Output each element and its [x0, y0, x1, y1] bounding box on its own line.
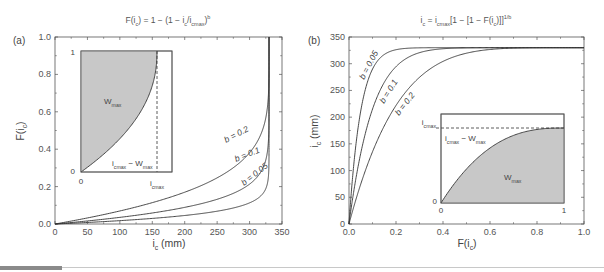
text-span: (mm) — [308, 114, 320, 141]
inset-x-right-label: 1 — [562, 206, 567, 215]
x-tick-label: 0.4 — [437, 227, 450, 237]
panel-b: 0.00.20.40.60.81.0050100150200250300350b… — [308, 14, 590, 251]
y-tick-label: 50 — [335, 192, 345, 202]
text-span: F(i — [126, 15, 136, 25]
inset-y-top-label: 1 — [71, 48, 76, 57]
curve-label: b = 0.2 — [222, 123, 250, 144]
bottom-divider — [0, 266, 604, 270]
y-tick-label: 250 — [330, 85, 345, 95]
panel-label-b: (b) — [308, 35, 320, 46]
x-tick-label: 200 — [177, 227, 192, 237]
y-axis-label-b: ic (mm) — [308, 114, 322, 147]
y-tick-label: 0.8 — [38, 69, 51, 79]
y-tick-label: 200 — [330, 112, 345, 122]
bottom-divider-line — [62, 267, 604, 268]
inset-icmax-label: icmax — [422, 118, 437, 129]
chart-title-a: F(ic) = 1 − (1 − ic/icmax)b — [126, 14, 211, 27]
text-span: cmax — [152, 184, 165, 190]
text-span: F(i — [14, 128, 26, 140]
text-span: (mm) — [158, 237, 185, 249]
text-span: [1 − [1 − F(i — [450, 15, 494, 25]
x-tick-label: 0.8 — [531, 227, 544, 237]
y-tick-label: 300 — [330, 59, 345, 69]
x-tick-label: 0.6 — [484, 227, 497, 237]
x-axis-label-b: F(ic) — [457, 237, 476, 251]
y-tick-label: 0.0 — [38, 219, 51, 229]
y-tick-label: 0.2 — [38, 182, 51, 192]
text-span: cmax — [191, 21, 204, 27]
curve-label: b = 0.05 — [357, 49, 380, 81]
chart-title-b: ic = icmax[1 − [1 − F(ic)]]1/b — [421, 14, 512, 27]
text-span: max — [512, 178, 522, 184]
inset-x-left-label: 0 — [79, 177, 84, 186]
text-span: 1/b — [504, 14, 512, 20]
y-tick-label: 100 — [330, 166, 345, 176]
inset-x-left-label: 0 — [439, 206, 444, 215]
curve-label: b = 0.05 — [239, 160, 270, 187]
text-span: max — [476, 139, 486, 145]
text-span: cmax — [114, 164, 127, 170]
text-span: − W — [459, 134, 476, 143]
text-span: F(i — [457, 237, 469, 249]
curve-label: b = 0.1 — [233, 145, 261, 164]
curve-label: b = 0.1 — [377, 77, 400, 105]
panel-a: 0501001502002503003500.00.20.40.60.81.0b… — [13, 14, 290, 251]
y-tick-label: 0 — [340, 219, 345, 229]
text-span: cmax — [437, 21, 450, 27]
y-tick-label: 150 — [330, 139, 345, 149]
inset-y-bottom-label: 0 — [71, 167, 76, 176]
inset-icmax-label: icmax — [150, 179, 165, 190]
x-tick-label: 0.2 — [390, 227, 403, 237]
y-tick-label: 1.0 — [38, 32, 51, 42]
y-axis-label-a: F(ic) — [14, 121, 28, 140]
text-span: cmax — [447, 139, 460, 145]
x-tick-label: 50 — [82, 227, 92, 237]
text-span: b — [207, 14, 210, 20]
text-span: ) — [473, 237, 477, 249]
text-span: max — [112, 102, 122, 108]
x-tick-label: 0 — [52, 227, 57, 237]
x-tick-label: 300 — [242, 227, 257, 237]
y-tick-label: 350 — [330, 32, 345, 42]
text-span: = i — [425, 15, 437, 25]
text-span: ) = 1 − (1 − i — [138, 15, 184, 25]
text-span: max — [143, 164, 153, 170]
x-tick-label: 350 — [274, 227, 289, 237]
x-axis-label-a: ic (mm) — [152, 237, 185, 251]
x-tick-label: 100 — [112, 227, 127, 237]
bottom-divider-accent — [0, 266, 62, 270]
panel-label-a: (a) — [13, 35, 25, 46]
figure-canvas: 0501001502002503003500.00.20.40.60.81.0b… — [0, 0, 604, 272]
y-tick-label: 0.6 — [38, 107, 51, 117]
text-span: cmax — [424, 123, 437, 129]
text-span: − W — [126, 159, 143, 168]
inset-y-bottom-label: 0 — [433, 197, 438, 206]
y-tick-label: 0.4 — [38, 144, 51, 154]
x-tick-label: 150 — [145, 227, 160, 237]
text-span: )]] — [496, 15, 504, 25]
curve-label: b = 0.2 — [393, 90, 417, 117]
text-span: ) — [14, 121, 26, 125]
x-tick-label: 1.0 — [578, 227, 591, 237]
x-tick-label: 250 — [210, 227, 225, 237]
